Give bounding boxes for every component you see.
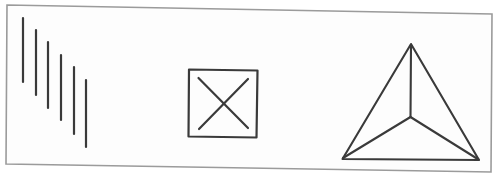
tetrahedron-triangle-figure-segment <box>411 45 412 117</box>
drawing-canvas <box>0 0 499 179</box>
border-frame <box>6 5 492 172</box>
scanned-figure-page <box>0 0 499 179</box>
